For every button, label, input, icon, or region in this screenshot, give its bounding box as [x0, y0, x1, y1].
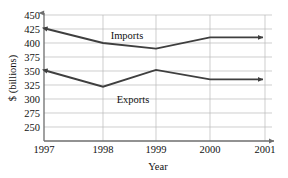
y-tick-325: 325	[24, 80, 40, 91]
y-tick-350: 350	[24, 66, 40, 77]
series-label-exports: Exports	[117, 94, 150, 105]
x-axis-title: Year	[148, 161, 168, 172]
series-line-exports	[47, 70, 263, 87]
line-chart: 450 425 400 375 350 325 300 275 250 1997…	[0, 0, 288, 178]
y-tick-450: 450	[24, 10, 40, 21]
y-tick-275: 275	[24, 108, 40, 119]
series-label-imports: Imports	[111, 30, 144, 41]
y-tick-425: 425	[24, 24, 40, 35]
x-tick-2000: 2000	[200, 144, 221, 155]
x-tick-labels: 1997 1998 1999 2000 2001	[34, 144, 276, 155]
y-tick-labels: 450 425 400 375 350 325 300 275 250	[24, 10, 40, 133]
x-tick-1998: 1998	[93, 144, 114, 155]
x-tick-1997: 1997	[34, 144, 55, 155]
y-tick-300: 300	[24, 94, 40, 105]
x-tick-1999: 1999	[146, 144, 167, 155]
x-tick-2001: 2001	[255, 144, 276, 155]
y-axis-title: $ (billions)	[7, 54, 19, 101]
y-tick-375: 375	[24, 52, 40, 63]
y-tick-400: 400	[24, 38, 40, 49]
y-tick-250: 250	[24, 122, 40, 133]
series-line-imports	[47, 29, 263, 49]
chart-svg: 450 425 400 375 350 325 300 275 250 1997…	[0, 0, 288, 178]
